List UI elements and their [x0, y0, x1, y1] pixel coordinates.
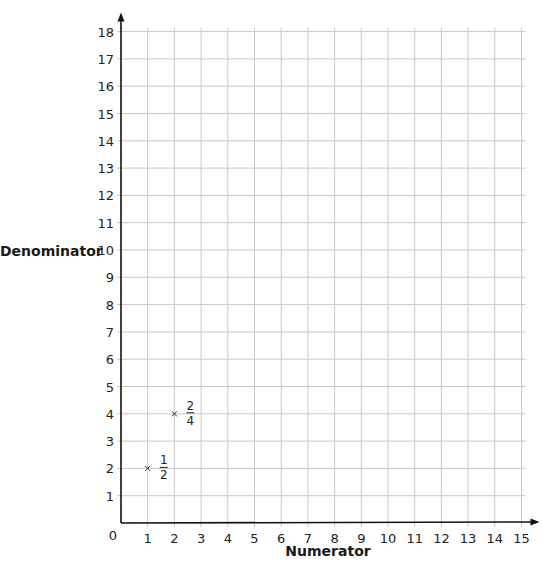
x-axis-title: Numerator — [285, 543, 370, 559]
y-tick-label: 11 — [97, 216, 114, 231]
x-tick-label: 13 — [460, 531, 477, 546]
x-tick-label: 14 — [487, 531, 504, 546]
x-tick-label: 15 — [513, 531, 530, 546]
y-tick-label: 17 — [97, 52, 114, 67]
y-tick-label: 1 — [106, 489, 114, 504]
x-axis-arrow-icon — [531, 519, 540, 526]
y-tick-label: 16 — [97, 79, 114, 94]
x-tick-label: 4 — [224, 531, 232, 546]
fraction-label: 24 — [186, 399, 194, 428]
x-tick-label: 12 — [433, 531, 450, 546]
y-tick-label: 12 — [97, 188, 114, 203]
y-axis-title: Denominator — [0, 243, 103, 259]
data-points: 1224 — [145, 399, 194, 483]
fraction-denominator: 4 — [187, 414, 195, 428]
y-tick-label: 4 — [106, 407, 114, 422]
y-tick-label: 13 — [97, 161, 114, 176]
y-tick-label: 14 — [97, 134, 114, 149]
x-tick-label: 11 — [406, 531, 423, 546]
axes — [118, 13, 540, 526]
x-tick-label: 10 — [380, 531, 397, 546]
fraction-denominator: 2 — [160, 468, 168, 482]
y-tick-label: 15 — [97, 107, 114, 122]
x-tick-label: 5 — [250, 531, 258, 546]
y-tick-label: 2 — [106, 461, 114, 476]
y-tick-label: 6 — [106, 352, 114, 367]
fraction-label: 12 — [160, 453, 168, 482]
y-tick-label: 3 — [106, 434, 114, 449]
x-tick-label: 3 — [197, 531, 205, 546]
x-tick-label: 1 — [144, 531, 152, 546]
x-axis-line — [121, 522, 534, 523]
fraction-numerator: 1 — [160, 453, 168, 467]
y-axis-arrow-icon — [118, 13, 125, 22]
y-tick-label: 18 — [97, 25, 114, 40]
origin-label: 0 — [109, 528, 117, 543]
y-tick-label: 9 — [106, 270, 114, 285]
x-tick-label: 6 — [277, 531, 285, 546]
grid-lines — [117, 28, 526, 527]
y-tick-label: 5 — [106, 380, 114, 395]
fraction-chart: 123456789101112131415161718 012345678910… — [0, 0, 543, 570]
x-tick-label: 2 — [170, 531, 178, 546]
y-tick-labels: 123456789101112131415161718 — [97, 25, 114, 504]
y-tick-label: 7 — [106, 325, 114, 340]
y-tick-label: 8 — [106, 298, 114, 313]
fraction-numerator: 2 — [187, 399, 195, 413]
